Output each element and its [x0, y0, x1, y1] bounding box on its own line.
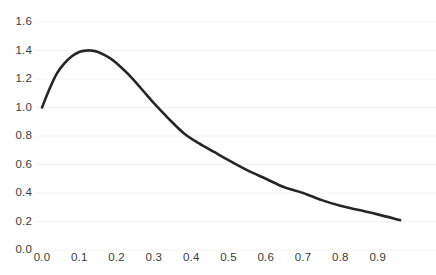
y-tick-label-0.8: 0.8 [15, 130, 32, 142]
x-tick-label-0.8: 0.8 [324, 252, 356, 264]
y-tick-label-1.6: 1.6 [15, 16, 32, 28]
x-tick-label-0.0: 0.0 [26, 252, 58, 264]
x-tick-label-0.6: 0.6 [250, 252, 282, 264]
x-tick-label-0.5: 0.5 [213, 252, 245, 264]
x-tick-label-0.3: 0.3 [138, 252, 170, 264]
y-tick-label-1.2: 1.2 [15, 73, 32, 85]
gridlines-group [36, 22, 436, 250]
y-tick-label-0.2: 0.2 [15, 216, 32, 228]
y-tick-label-1.0: 1.0 [15, 102, 32, 114]
chart-plot-area: 0.00.20.40.60.81.01.21.41.6 0.00.10.20.3… [0, 0, 436, 275]
x-tick-label-0.7: 0.7 [287, 252, 319, 264]
x-tick-label-0.1: 0.1 [63, 252, 95, 264]
data-series-curve [42, 50, 400, 220]
x-tick-label-0.2: 0.2 [101, 252, 133, 264]
y-tick-label-0.6: 0.6 [15, 159, 32, 171]
x-tick-label-0.9: 0.9 [362, 252, 394, 264]
x-tick-label-0.4: 0.4 [175, 252, 207, 264]
y-tick-label-0.4: 0.4 [15, 187, 32, 199]
y-tick-label-1.4: 1.4 [15, 45, 32, 57]
chart-canvas [0, 0, 436, 275]
